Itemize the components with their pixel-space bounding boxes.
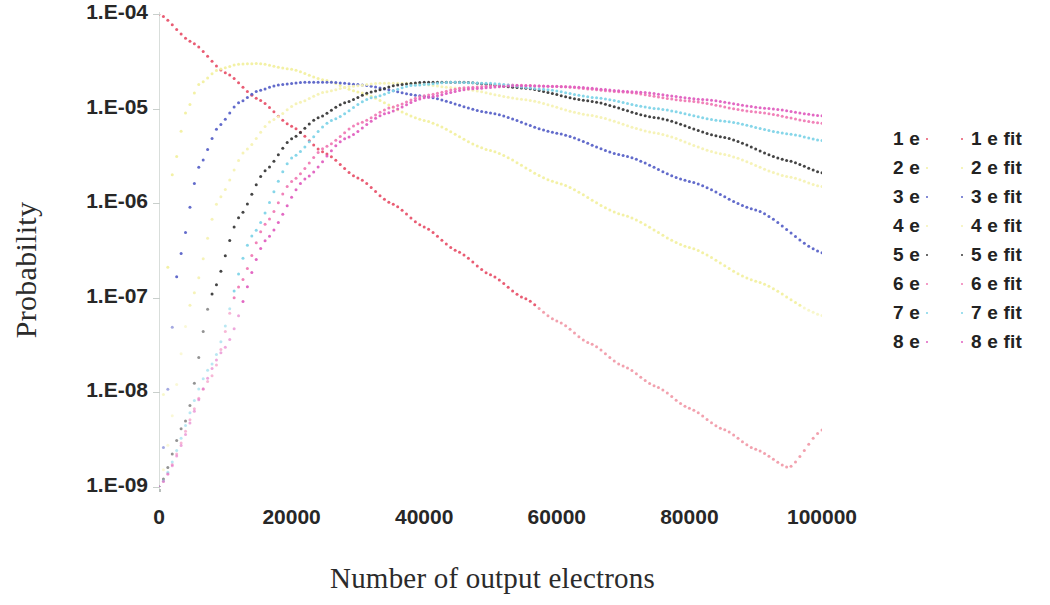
legend-item-3-e[interactable]: 3 e — [893, 186, 955, 208]
data-point — [798, 118, 801, 121]
data-point — [427, 228, 430, 231]
data-point — [290, 125, 293, 128]
data-point — [648, 92, 651, 95]
data-point — [745, 160, 748, 163]
data-point — [330, 89, 333, 92]
data-point — [630, 103, 633, 106]
data-point — [798, 134, 801, 137]
data-point — [233, 226, 236, 229]
legend-item-5-e-fit[interactable]: 5 e fit — [955, 244, 1043, 266]
data-point — [458, 89, 461, 92]
data-point — [564, 184, 567, 187]
data-point — [551, 131, 554, 134]
data-point — [162, 480, 165, 483]
legend-item-1-e[interactable]: 1 e — [893, 128, 955, 150]
data-point — [741, 123, 744, 126]
legend-item-8-e-fit[interactable]: 8 e fit — [955, 331, 1043, 353]
data-point — [595, 115, 598, 118]
data-point — [374, 190, 377, 193]
data-point — [193, 407, 196, 410]
data-point — [325, 122, 328, 125]
data-point — [321, 91, 324, 94]
data-point — [582, 86, 585, 89]
data-point — [666, 236, 669, 239]
data-point — [807, 137, 810, 140]
data-point — [785, 159, 788, 162]
data-point — [630, 216, 633, 219]
data-point — [361, 94, 364, 97]
y-tick-label: 1.E-07 — [28, 284, 148, 308]
legend-marker-icon — [920, 220, 936, 232]
data-point — [228, 307, 231, 310]
data-point — [414, 220, 417, 223]
legend-item-2-e-fit[interactable]: 2 e fit — [955, 157, 1043, 179]
data-point — [675, 110, 678, 113]
data-point — [193, 182, 196, 185]
legend-item-7-e-fit[interactable]: 7 e fit — [955, 302, 1043, 324]
data-point — [582, 99, 585, 102]
legend-item-6-e[interactable]: 6 e — [893, 273, 955, 295]
data-point — [241, 86, 244, 89]
data-point — [710, 421, 713, 424]
legend-item-4-e[interactable]: 4 e — [893, 215, 955, 237]
data-point — [600, 204, 603, 207]
data-point — [661, 118, 664, 121]
data-point — [171, 173, 174, 176]
legend-item-3-e-fit[interactable]: 3 e fit — [955, 186, 1043, 208]
data-point — [268, 201, 271, 204]
data-point — [754, 111, 757, 114]
data-point — [697, 101, 700, 104]
data-point — [383, 112, 386, 115]
data-point — [171, 23, 174, 26]
data-point — [330, 109, 333, 112]
legend-item-8-e[interactable]: 8 e — [893, 331, 955, 353]
data-point — [348, 85, 351, 88]
data-point — [692, 247, 695, 250]
legend-item-6-e-fit[interactable]: 6 e fit — [955, 273, 1043, 295]
data-point — [781, 109, 784, 112]
data-point — [511, 97, 514, 100]
legend-item-5-e[interactable]: 5 e — [893, 244, 955, 266]
data-point — [387, 201, 390, 204]
data-point — [440, 85, 443, 88]
data-point — [511, 289, 514, 292]
data-point — [502, 95, 505, 98]
data-point — [180, 130, 183, 133]
data-point — [374, 117, 377, 120]
data-point — [396, 205, 399, 208]
data-point — [741, 159, 744, 162]
data-point — [277, 66, 280, 69]
data-point — [728, 106, 731, 109]
data-point — [277, 115, 280, 118]
data-point — [193, 410, 196, 413]
legend-item-1-e-fit[interactable]: 1 e fit — [955, 128, 1043, 150]
data-point — [180, 444, 183, 447]
data-point — [277, 180, 280, 183]
data-point — [790, 465, 793, 468]
data-point — [688, 246, 691, 249]
data-point — [401, 110, 404, 113]
data-point — [657, 107, 660, 110]
x-tick-label: 0 — [153, 505, 165, 529]
data-point — [237, 272, 240, 275]
data-point — [259, 131, 262, 134]
legend-item-2-e[interactable]: 2 e — [893, 157, 955, 179]
data-point — [211, 292, 214, 295]
data-point — [485, 91, 488, 94]
data-point — [502, 282, 505, 285]
y-axis-tick-mark — [153, 392, 160, 393]
data-point — [498, 278, 501, 281]
data-point — [648, 115, 651, 118]
data-point — [737, 103, 740, 106]
legend-fit-marker-icon — [955, 307, 971, 319]
legend-item-7-e[interactable]: 7 e — [893, 302, 955, 324]
data-point — [427, 96, 430, 99]
data-point — [675, 241, 678, 244]
legend-item-4-e-fit[interactable]: 4 e fit — [955, 215, 1043, 237]
data-point — [250, 193, 253, 196]
data-point — [683, 245, 686, 248]
data-point — [462, 105, 465, 108]
data-point — [710, 99, 713, 102]
data-point — [644, 114, 647, 117]
data-point — [233, 77, 236, 80]
